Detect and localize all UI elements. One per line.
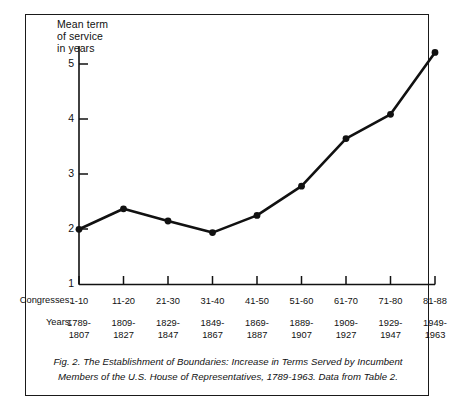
figure-caption: Fig. 2. The Establishment of Boundaries:… [46,355,410,384]
data-series-line [79,52,435,232]
data-point-markers [76,49,439,236]
y-tick-label-1: 1 [52,277,74,289]
years-label-11-20: 1809- 1827 [100,317,148,342]
congress-label-21-30: 21-30 [144,295,192,307]
years-label-21-30: 1829- 1847 [144,317,192,342]
years-label-71-80: 1929- 1947 [367,317,415,342]
data-point-41-50 [254,212,261,219]
data-point-31-40 [209,229,216,236]
data-point-51-60 [298,183,305,190]
data-point-71-80 [387,111,394,118]
data-point-81-88 [432,49,439,56]
congress-label-51-60: 51-60 [278,295,326,307]
x-axis-ticks [79,276,435,285]
data-point-11-20 [120,205,127,212]
years-label-31-40: 1849- 1867 [189,317,237,342]
data-point-1-10 [76,226,83,233]
congress-label-61-70: 61-70 [322,295,370,307]
congress-label-31-40: 31-40 [189,295,237,307]
chart-axes [79,46,435,285]
y-tick-label-2: 2 [52,222,74,234]
years-label-61-70: 1909- 1927 [322,317,370,342]
y-tick-label-3: 3 [52,167,74,179]
y-tick-label-5: 5 [52,57,74,69]
data-point-21-30 [165,218,172,225]
congress-label-11-20: 11-20 [100,295,148,307]
years-label-81-88: 1949- 1963 [411,317,453,342]
congress-label-1-10: 1-10 [55,295,103,307]
congress-label-81-88: 81-88 [411,295,453,307]
y-tick-label-4: 4 [52,112,74,124]
congress-label-71-80: 71-80 [367,295,415,307]
years-label-41-50: 1869- 1887 [233,317,281,342]
congress-label-41-50: 41-50 [233,295,281,307]
years-label-1-10: 1789- 1807 [55,317,103,342]
y-axis-ticks [79,64,88,229]
data-point-61-70 [343,135,350,142]
years-label-51-60: 1889- 1907 [278,317,326,342]
